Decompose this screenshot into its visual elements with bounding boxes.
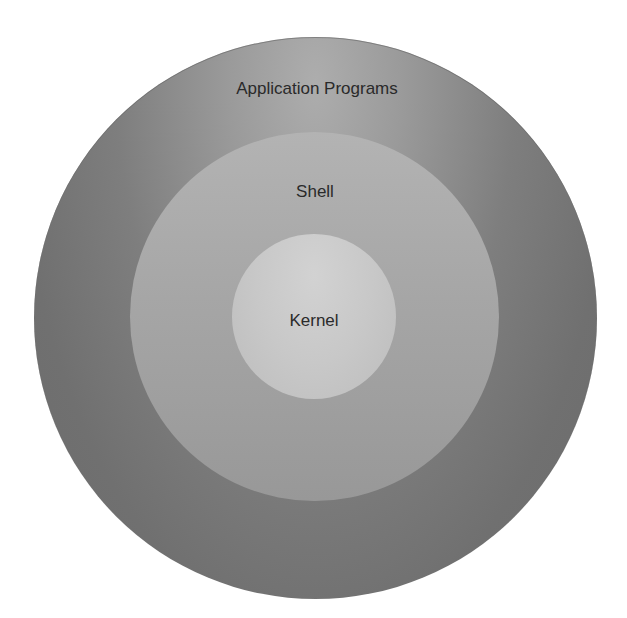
- shell-label: Shell: [296, 182, 334, 202]
- os-layers-diagram: Application Programs Shell Kernel: [0, 0, 627, 618]
- kernel-label: Kernel: [289, 311, 338, 331]
- application-programs-label: Application Programs: [236, 79, 398, 99]
